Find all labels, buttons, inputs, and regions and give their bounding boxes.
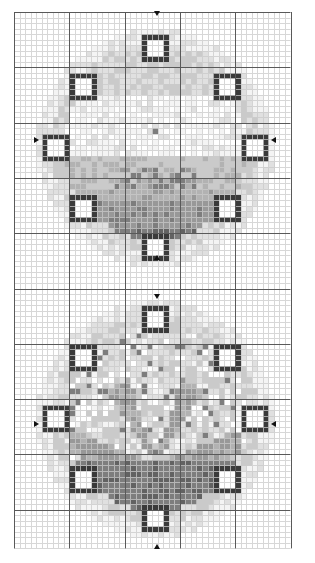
bottom-center-arrow [154, 255, 160, 260]
right-center-arrow [271, 137, 276, 143]
pattern-page: Cross Stitch Pattern Chart Two round flo… [0, 0, 315, 563]
grid-lines-layer [14, 12, 292, 552]
stitch-chart[interactable] [14, 12, 292, 552]
top-center-arrow [154, 11, 160, 16]
bottom-center-arrow-2 [154, 544, 160, 549]
top-center-arrow-2 [154, 294, 160, 299]
right-center-arrow-2 [271, 421, 276, 427]
left-center-arrow [34, 137, 39, 143]
left-center-arrow-2 [34, 421, 39, 427]
